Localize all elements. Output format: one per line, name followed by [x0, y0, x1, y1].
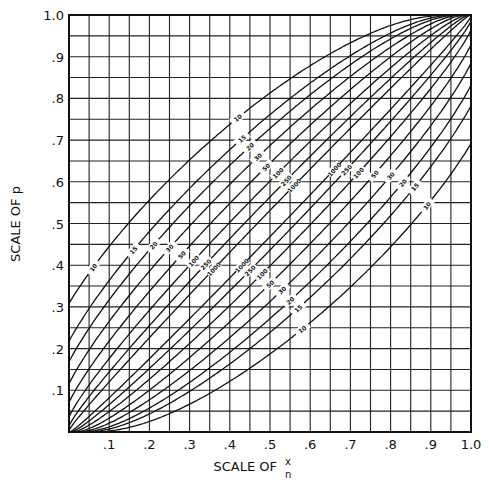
x-axis-label-numerator: x [285, 456, 291, 467]
x-axis-label: SCALE OF x n [213, 456, 291, 480]
y-tick-label: .9 [52, 50, 64, 65]
y-axis-ticks: .1.2.3.4.5.6.7.8.91.0 [43, 8, 64, 398]
y-tick-label: .3 [52, 300, 64, 315]
y-tick-label: .1 [52, 383, 64, 398]
y-tick-label: .6 [52, 175, 64, 190]
y-tick-label: .8 [52, 91, 64, 106]
x-tick-label: 1.0 [461, 437, 482, 452]
y-tick-label: .4 [52, 258, 64, 273]
x-axis-label-denominator: n [285, 469, 291, 480]
grid-lines [69, 15, 471, 432]
y-tick-label: .5 [52, 217, 64, 232]
x-axis-label-prefix: SCALE OF [213, 459, 277, 474]
x-tick-label: .5 [264, 437, 276, 452]
x-tick-label: .9 [425, 437, 437, 452]
x-axis-ticks: .1.2.3.4.5.6.7.8.91.0 [103, 437, 481, 452]
y-tick-label: 1.0 [43, 8, 64, 23]
y-axis-label: SCALE OF p [8, 186, 23, 262]
y-tick-label: .2 [52, 342, 64, 357]
y-tick-label: .7 [52, 133, 64, 148]
curve-label-text: 1000 [326, 161, 343, 178]
x-tick-label: .8 [384, 437, 396, 452]
x-tick-label: .4 [224, 437, 236, 452]
x-tick-label: .1 [103, 437, 115, 452]
x-tick-label: .6 [304, 437, 316, 452]
curve-label-upper-n10: 10 [85, 259, 101, 277]
x-tick-label: .3 [183, 437, 195, 452]
x-tick-label: .2 [143, 437, 155, 452]
confidence-belt-chart: 1010151520203030505010010025025010001000… [0, 0, 489, 493]
x-tick-label: .7 [344, 437, 356, 452]
